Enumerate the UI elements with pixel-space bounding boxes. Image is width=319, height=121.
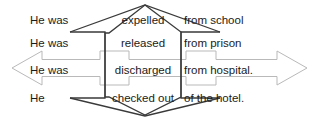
sentence-row: He was released from prison bbox=[0, 35, 319, 51]
row-verb: checked out bbox=[104, 90, 182, 106]
row-object: of the hotel. bbox=[184, 90, 300, 106]
sentence-row: He checked out of the hotel. bbox=[0, 90, 319, 106]
row-subject: He was bbox=[30, 35, 102, 51]
diagram-canvas: He was expelled from school He was relea… bbox=[0, 0, 319, 121]
row-verb: discharged bbox=[104, 62, 182, 78]
row-subject: He bbox=[30, 90, 102, 106]
row-verb: expelled bbox=[104, 12, 182, 28]
sentence-row: He was expelled from school bbox=[0, 12, 319, 28]
row-subject: He was bbox=[30, 12, 102, 28]
row-object: from prison bbox=[184, 35, 300, 51]
row-verb: released bbox=[104, 35, 182, 51]
row-subject: He was bbox=[30, 62, 102, 78]
sentence-row: He was discharged from hospital. bbox=[0, 62, 319, 78]
row-object: from hospital. bbox=[184, 62, 300, 78]
row-object: from school bbox=[184, 12, 300, 28]
